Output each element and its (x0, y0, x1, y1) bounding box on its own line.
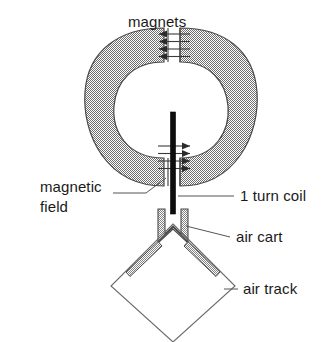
air-cart-right-skirt (184, 242, 220, 277)
one-turn-coil-wire (171, 112, 176, 214)
air-cart (126, 209, 220, 277)
air-track (111, 224, 235, 342)
diagram-canvas: magnets magnetic field 1 turn coil air c… (0, 0, 328, 342)
label-air-track: air track (243, 280, 298, 297)
label-magnets: magnets (128, 13, 186, 30)
physics-diagram-magnet-coil-air-cart: magnets magnetic field 1 turn coil air c… (0, 0, 328, 342)
air-cart-left-skirt (126, 242, 162, 277)
magnet-yoke-right (180, 28, 257, 186)
air-track-outline (111, 224, 235, 342)
label-magnetic-field-line2: field (40, 198, 68, 215)
label-one-turn-coil: 1 turn coil (240, 187, 306, 204)
magnet-yoke-left (85, 28, 164, 186)
label-magnetic-field-line1: magnetic (40, 178, 102, 195)
label-air-cart: air cart (236, 228, 283, 245)
leader-air-cart (186, 226, 230, 237)
